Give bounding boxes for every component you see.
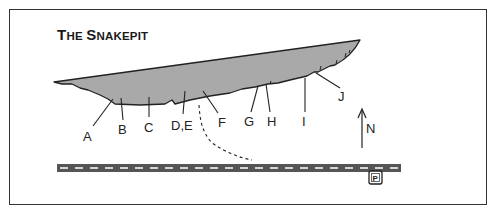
route-label-h: H: [267, 114, 276, 129]
north-arrow: N: [358, 109, 375, 148]
cliff-band: [54, 40, 360, 105]
route-label-b: B: [118, 122, 127, 137]
parking-icon: P: [369, 171, 382, 184]
north-label: N: [366, 121, 375, 136]
route-label-de: D,E: [171, 118, 193, 133]
route-label-f: F: [218, 115, 226, 130]
route-label-i: I: [302, 114, 306, 129]
parking-glyph: P: [373, 174, 379, 183]
map-canvas: A B C D,E F G H I J P N: [0, 0, 502, 219]
route-label-c: C: [144, 120, 153, 135]
route-label-j: J: [338, 89, 345, 104]
route-label-a: A: [83, 129, 92, 144]
route-label-g: G: [244, 114, 254, 129]
